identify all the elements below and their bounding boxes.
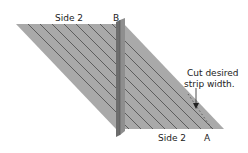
top-side-label: Side 2 <box>55 13 83 23</box>
corner-a-label: A <box>204 133 210 143</box>
corner-b-label: B <box>113 13 119 23</box>
annotation-line-2: strip width. <box>184 79 235 89</box>
annotation-line-1: Cut desired <box>187 68 239 78</box>
bottom-side-label: Side 2 <box>158 133 186 143</box>
seam-fold <box>116 18 125 137</box>
